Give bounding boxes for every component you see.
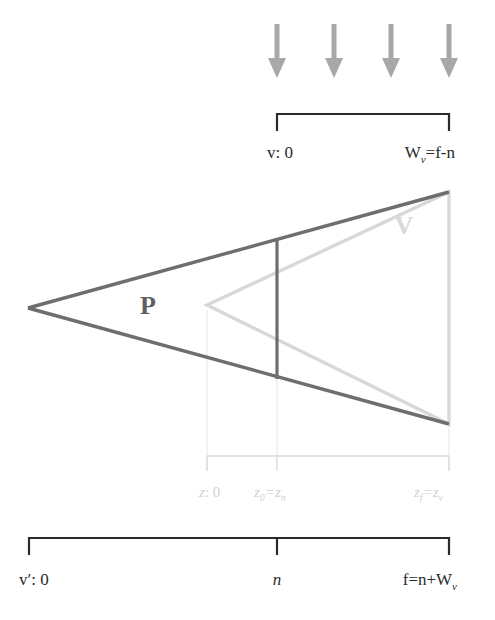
down-arrow-icon <box>382 24 400 78</box>
z-axis-label-near: z0=zn <box>253 484 286 503</box>
z-axis-label-zero: z: 0 <box>198 484 220 500</box>
perspective-frustum-P <box>28 192 449 424</box>
diagram-canvas: v: 0 Wv=f-n P V z: 0 <box>0 0 495 620</box>
vprime-axis-bracket <box>29 538 449 555</box>
label-P: P <box>140 291 156 320</box>
v-axis-bracket <box>277 114 449 131</box>
v-axis-right-label: Wv=f-n <box>405 143 456 165</box>
vprime-axis-left-label: v′: 0 <box>19 570 49 589</box>
z-axis-bracket <box>207 456 449 471</box>
down-arrow-icon <box>268 24 286 78</box>
down-arrow-icon <box>325 24 343 78</box>
downward-arrows-group <box>268 24 458 78</box>
down-arrow-icon <box>440 24 458 78</box>
v-axis-left-label: v: 0 <box>267 143 293 162</box>
figure-root: v: 0 Wv=f-n P V z: 0 <box>0 0 495 620</box>
label-V: V <box>395 211 414 240</box>
vprime-axis-middle-label: n <box>273 570 282 589</box>
vprime-axis-right-label: f=n+Wv <box>403 570 457 592</box>
z-axis-label-far: zf=zv <box>413 484 444 503</box>
